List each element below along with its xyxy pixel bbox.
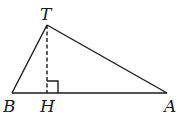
segment-TB: [12, 25, 47, 93]
label-A: A: [162, 96, 176, 116]
label-B: B: [2, 96, 16, 116]
label-H: H: [39, 96, 56, 116]
segment-TA: [47, 25, 167, 93]
right-angle-marker: [47, 81, 58, 93]
triangle-diagram: T B H A: [0, 0, 181, 118]
label-T: T: [40, 4, 53, 24]
